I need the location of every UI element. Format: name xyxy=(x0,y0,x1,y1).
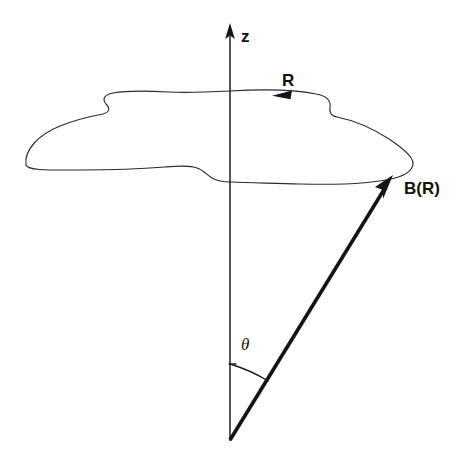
field-vector-shaft xyxy=(230,188,385,440)
z-axis-group xyxy=(225,23,235,441)
physics-diagram: z R B(R) θ xyxy=(0,0,457,463)
field-vector-label: B(R) xyxy=(404,179,440,198)
loop-direction-arrow xyxy=(272,91,292,100)
flux-surface-contour xyxy=(26,90,413,185)
angle-arc-group xyxy=(229,364,268,381)
figure-root: z R B(R) θ xyxy=(0,0,457,463)
field-vector-group xyxy=(230,175,393,440)
field-vector-arrowhead xyxy=(375,175,393,199)
contour-outline xyxy=(26,90,413,185)
r-direction-arrowhead xyxy=(272,91,292,100)
z-axis-label: z xyxy=(241,27,250,46)
loop-direction-label: R xyxy=(282,71,294,90)
theta-arc xyxy=(230,364,268,381)
angle-label: θ xyxy=(241,335,249,354)
